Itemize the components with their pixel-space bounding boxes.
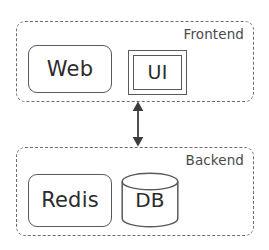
group-backend-label: Backend: [186, 154, 244, 168]
node-db-label: DB: [121, 172, 179, 228]
connector-frontend-backend[interactable]: [124, 100, 152, 148]
node-db[interactable]: DB: [121, 172, 179, 228]
node-ui[interactable]: UI: [128, 50, 187, 95]
architecture-diagram: Frontend Web UI Backend Redis DB: [0, 0, 269, 250]
group-frontend-label: Frontend: [184, 28, 244, 42]
node-ui-label: UI: [148, 63, 168, 82]
node-web[interactable]: Web: [28, 45, 112, 93]
node-redis-label: Redis: [41, 190, 99, 211]
node-web-label: Web: [47, 59, 93, 80]
node-ui-inner-frame: UI: [133, 55, 182, 90]
double-arrow-icon: [124, 100, 152, 148]
node-redis[interactable]: Redis: [28, 174, 112, 227]
